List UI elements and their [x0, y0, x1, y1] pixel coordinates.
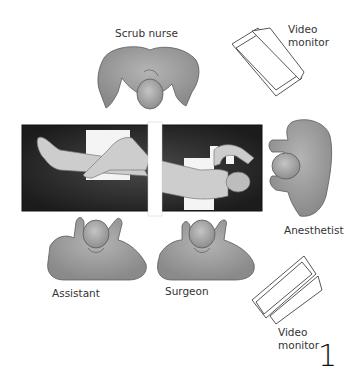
label-surgeon: Surgeon — [165, 285, 209, 298]
label-video-monitor-bottom-line1: Video — [278, 326, 319, 339]
label-video-monitor-top-line2: monitor — [288, 36, 329, 49]
scrub-nurse-figure — [98, 47, 199, 109]
anesthetist-figure — [269, 120, 332, 217]
sterile-drape — [148, 122, 162, 216]
label-scrub-nurse: Scrub nurse — [115, 27, 178, 40]
label-video-monitor-top: Video monitor — [288, 23, 329, 49]
label-video-monitor-bottom: Video monitor — [278, 326, 319, 352]
label-video-monitor-top-line1: Video — [288, 23, 329, 36]
label-video-monitor-bottom-line2: monitor — [278, 339, 319, 352]
label-anesthetist: Anesthetist — [284, 224, 344, 237]
figure-number: 1 — [318, 338, 337, 373]
label-assistant: Assistant — [52, 287, 100, 300]
assistant-figure — [48, 218, 147, 281]
video-monitor-bottom-icon — [252, 256, 322, 324]
surgeon-figure — [158, 220, 255, 280]
or-diagram — [0, 0, 347, 378]
